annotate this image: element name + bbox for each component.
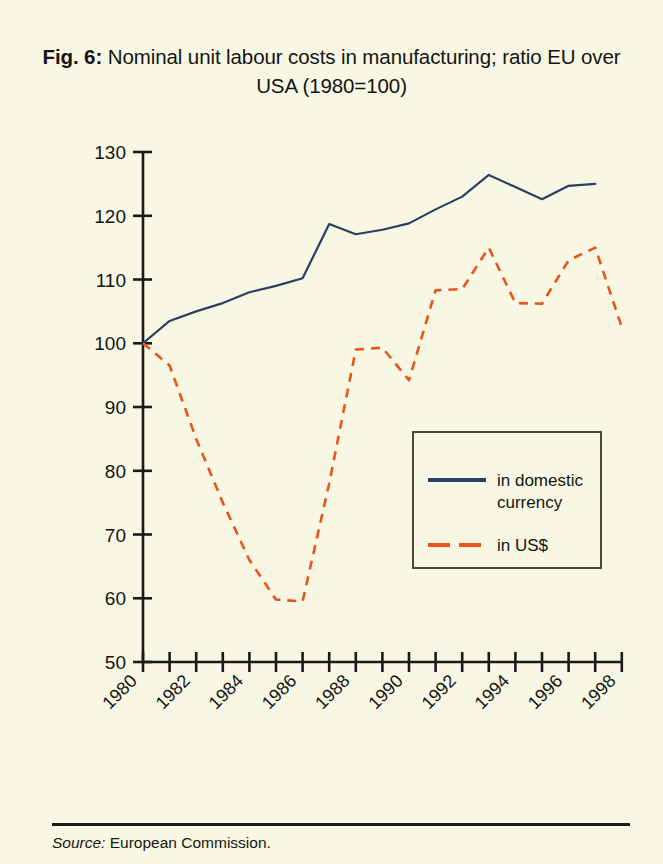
- x-tick-label: 1994: [471, 671, 513, 713]
- y-tick-label: 120: [94, 206, 126, 227]
- source-label: Source:: [52, 834, 105, 851]
- y-tick-label: 60: [105, 588, 126, 609]
- x-tick-label: 1998: [577, 671, 619, 713]
- x-tick-label: 1990: [364, 671, 406, 713]
- x-tick-label: 1984: [205, 671, 247, 713]
- source-divider: [52, 823, 630, 826]
- legend-label-domestic-currency-line1: in domestic: [497, 471, 583, 490]
- x-tick-label: 1996: [524, 671, 566, 713]
- figure-title-text: Nominal unit labour costs in manufacturi…: [102, 45, 620, 97]
- y-axis-tick-labels: 130 120 110 100 90 80 70 60 50: [94, 142, 126, 673]
- chart-legend: in domestic currency in US$: [413, 432, 601, 568]
- y-tick-label: 130: [94, 142, 126, 163]
- source-note: Source: European Commission.: [52, 833, 271, 853]
- figure-container: Fig. 6: Nominal unit labour costs in man…: [0, 0, 663, 864]
- x-tick-label: 1982: [152, 671, 194, 713]
- chart-plot-area: 130 120 110 100 90 80 70 60 50: [0, 120, 663, 740]
- legend-label-domestic-currency-line2: currency: [497, 493, 563, 512]
- y-tick-label: 50: [105, 652, 126, 673]
- y-tick-label: 100: [94, 333, 126, 354]
- x-axis-tick-labels: 1980 1982 1984 1986 1988 1990 1992 1994 …: [98, 671, 619, 713]
- x-tick-label: 1980: [98, 671, 140, 713]
- x-tick-label: 1992: [418, 671, 460, 713]
- y-tick-label: 110: [96, 270, 126, 291]
- source-text: European Commission.: [105, 834, 270, 851]
- line-chart-svg: 130 120 110 100 90 80 70 60 50: [0, 120, 663, 740]
- y-tick-label: 90: [105, 397, 126, 418]
- figure-title: Fig. 6: Nominal unit labour costs in man…: [40, 42, 623, 100]
- figure-label: Fig. 6:: [42, 45, 102, 68]
- series-line-in-domestic-currency: [143, 175, 595, 343]
- x-tick-label: 1988: [311, 671, 353, 713]
- legend-label-us-dollar: in US$: [497, 536, 549, 555]
- y-tick-label: 70: [105, 525, 126, 546]
- x-tick-label: 1986: [258, 671, 300, 713]
- y-tick-label: 80: [105, 461, 126, 482]
